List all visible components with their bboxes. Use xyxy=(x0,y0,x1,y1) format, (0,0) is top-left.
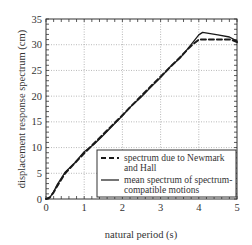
y-tick-label: 15 xyxy=(32,116,43,127)
y-tick-label: 10 xyxy=(32,142,43,153)
displacement-spectrum-chart: 012345 05101520253035 natural period (s)… xyxy=(0,0,252,245)
y-tick-labels: 05101520253035 xyxy=(32,14,43,205)
legend-item-mean-line1: mean spectrum of spectrum- xyxy=(124,175,232,185)
legend-item-newmark-line1: spectrum due to Newmark xyxy=(124,153,225,163)
x-tick-label: 1 xyxy=(82,202,87,213)
y-tick-label: 20 xyxy=(32,91,43,102)
y-tick-label: 30 xyxy=(32,39,43,50)
x-tick-label: 5 xyxy=(234,202,239,213)
y-axis-title: displacement response spectrum (cm) xyxy=(16,29,28,188)
y-tick-label: 25 xyxy=(32,65,43,76)
x-tick-label: 0 xyxy=(43,202,48,213)
x-tick-labels: 012345 xyxy=(43,202,239,213)
x-tick-label: 3 xyxy=(158,202,163,213)
y-tick-label: 35 xyxy=(32,14,43,25)
y-tick-label: 0 xyxy=(37,194,42,205)
x-tick-label: 4 xyxy=(196,202,202,213)
legend-item-newmark-line2: and Hall xyxy=(124,163,157,173)
x-axis-title: natural period (s) xyxy=(105,229,178,241)
y-tick-label: 5 xyxy=(37,168,42,179)
legend: spectrum due to Newmark and Hall mean sp… xyxy=(97,150,236,197)
x-tick-label: 2 xyxy=(120,202,125,213)
legend-item-mean-line2: compatible motions xyxy=(124,185,200,195)
